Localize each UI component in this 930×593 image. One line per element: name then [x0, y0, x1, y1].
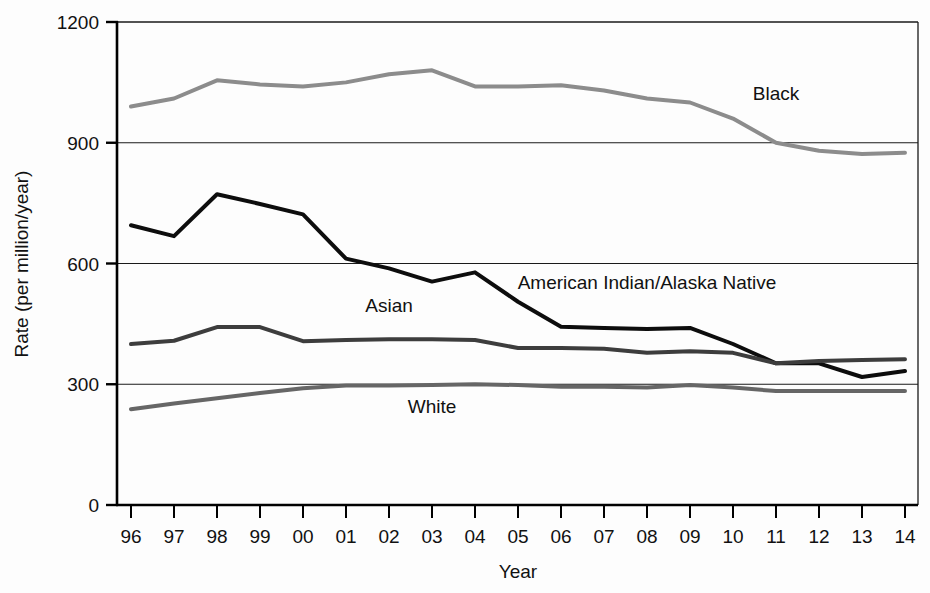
line-chart-canvas: 03006009001200 9697989900010203040506070…	[0, 0, 930, 593]
y-tick-label-600: 600	[67, 254, 99, 275]
x-tick-label-07: 07	[593, 526, 614, 547]
x-tick-label-10: 10	[722, 526, 743, 547]
x-tick-label-13: 13	[851, 526, 872, 547]
y-tick-label-1200: 1200	[57, 12, 99, 33]
x-tick-label-06: 06	[550, 526, 571, 547]
y-tick-label-300: 300	[67, 374, 99, 395]
x-tick-label-97: 97	[163, 526, 184, 547]
x-tick-label-11: 11	[766, 526, 786, 547]
y-axis-ticks: 03006009001200	[57, 12, 118, 516]
series-annotation-american-indian-alaska-native: American Indian/Alaska Native	[518, 272, 777, 293]
x-tick-label-00: 00	[292, 526, 313, 547]
chart-figure: 03006009001200 9697989900010203040506070…	[0, 0, 930, 593]
series-annotation-black: Black	[753, 83, 800, 104]
x-tick-label-12: 12	[808, 526, 829, 547]
x-tick-label-98: 98	[206, 526, 227, 547]
x-tick-label-05: 05	[507, 526, 528, 547]
series-annotation-white: White	[408, 396, 457, 417]
x-tick-label-09: 09	[679, 526, 700, 547]
x-tick-label-03: 03	[421, 526, 442, 547]
x-tick-label-08: 08	[636, 526, 657, 547]
y-tick-label-900: 900	[67, 133, 99, 154]
x-axis-title: Year	[499, 561, 538, 582]
x-tick-label-96: 96	[120, 526, 141, 547]
x-tick-label-01: 01	[335, 526, 356, 547]
x-tick-label-14: 14	[894, 526, 916, 547]
y-tick-label-0: 0	[88, 495, 99, 516]
x-tick-label-99: 99	[249, 526, 270, 547]
series-annotation-asian: Asian	[365, 295, 413, 316]
x-tick-label-02: 02	[378, 526, 399, 547]
x-tick-label-04: 04	[464, 526, 486, 547]
y-axis-title: Rate (per million/year)	[11, 171, 32, 358]
x-axis-ticks: 96979899000102030405060708091011121314	[120, 506, 916, 547]
